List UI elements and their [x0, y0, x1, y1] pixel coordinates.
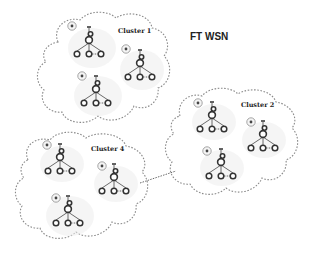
relay-node — [95, 81, 99, 85]
sensor-node — [248, 145, 254, 151]
relay-node — [211, 107, 215, 111]
sensor-node — [221, 126, 227, 132]
sensor-node — [69, 168, 75, 174]
sensor-node — [99, 188, 105, 194]
sensor-node — [230, 173, 236, 179]
cluster-head-node — [93, 86, 100, 93]
sensor-node — [86, 51, 92, 57]
relay-node — [139, 55, 143, 59]
sensor-node — [57, 168, 63, 174]
sensor-subtrees — [43, 22, 278, 226]
ft-wsn-diagram: Cluster 1 FT WSN Cluster 2 Cluster 4 — [0, 0, 310, 265]
diagram-title: FT WSN — [190, 31, 228, 42]
cluster-head-node — [111, 174, 118, 181]
sensor-node — [197, 126, 203, 132]
relay-node — [262, 126, 266, 130]
sensor-node — [137, 74, 143, 80]
cluster-4-label: Cluster 4 — [91, 145, 125, 153]
sensor-node — [123, 188, 129, 194]
cluster-head-node — [209, 112, 216, 119]
relay-node — [67, 201, 71, 205]
relay-node — [113, 169, 117, 173]
sensor-node — [272, 145, 278, 151]
sensor-node — [77, 220, 83, 226]
cluster-head-node — [65, 206, 72, 213]
sensor-node — [218, 173, 224, 179]
cluster-1: Cluster 1 — [37, 12, 169, 122]
sensor-node — [149, 74, 155, 80]
sensor-node — [111, 188, 117, 194]
cluster-head-node — [57, 154, 64, 161]
cluster-1-label: Cluster 1 — [118, 27, 151, 35]
sensor-node — [260, 145, 266, 151]
cluster-head-node — [260, 131, 267, 138]
sensor-node — [74, 51, 80, 57]
cluster-2-label: Cluster 2 — [241, 101, 274, 109]
sensor-node — [45, 168, 51, 174]
sensor-node — [125, 74, 131, 80]
sensor-node — [81, 100, 87, 106]
sensor-node — [93, 100, 99, 106]
sensor-node — [98, 51, 104, 57]
sensor-node — [65, 220, 71, 226]
diagram-canvas: Cluster 1 FT WSN Cluster 2 Cluster 4 — [0, 0, 310, 265]
sensor-node — [105, 100, 111, 106]
sensor-node — [209, 126, 215, 132]
relay-node — [220, 154, 224, 158]
relay-node — [59, 149, 63, 153]
cluster-head-node — [86, 37, 93, 44]
link-cluster-4-to-cluster-2 — [140, 171, 176, 183]
cluster-head-node — [137, 60, 144, 67]
relay-node — [88, 32, 92, 36]
sensor-node — [206, 173, 212, 179]
sensor-node — [53, 220, 59, 226]
cluster-head-node — [218, 159, 225, 166]
